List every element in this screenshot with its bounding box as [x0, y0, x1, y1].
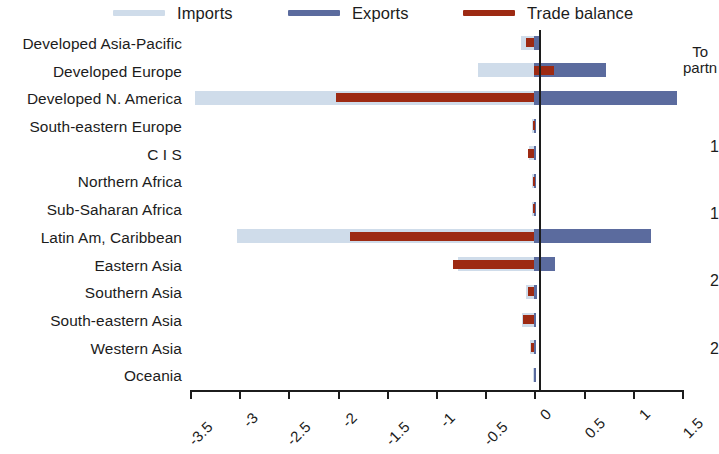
right-panel-value: 2 [710, 340, 719, 358]
chart-row [190, 85, 682, 113]
x-tick-label: 1 [635, 405, 653, 423]
category-label: Southern Asia [0, 279, 186, 307]
category-label: C I S [0, 141, 186, 169]
x-tick [584, 390, 586, 399]
x-tick [387, 390, 389, 399]
x-tick-label: 1.5 [679, 414, 706, 441]
legend-label-exports: Exports [352, 0, 409, 26]
bar-trade-balance [534, 66, 554, 75]
legend-item-trade-balance: Trade balance [463, 0, 633, 26]
zero-reference-line [539, 30, 541, 392]
bar-exports [534, 229, 650, 243]
bar-trade-balance [533, 204, 535, 213]
chart-row [190, 196, 682, 224]
chart-row [190, 335, 682, 363]
x-tick-label: -3 [239, 409, 261, 431]
category-label: Western Asia [0, 335, 186, 363]
category-label: Oceania [0, 362, 186, 390]
x-tick-label: -1.5 [382, 418, 413, 449]
bar-exports [534, 340, 536, 354]
legend-item-exports: Exports [288, 0, 409, 26]
bar-trade-balance [528, 149, 534, 158]
x-tick-label: -2 [338, 409, 360, 431]
x-tick [633, 390, 635, 399]
chart-row [190, 30, 682, 58]
chart-row [190, 252, 682, 280]
x-tick-label: -3.5 [185, 418, 216, 449]
chart-row [190, 362, 682, 390]
chart-row [190, 279, 682, 307]
x-tick-label: 0.5 [581, 414, 608, 441]
chart-row [190, 168, 682, 196]
bar-trade-balance [350, 232, 534, 241]
category-label: Developed N. America [0, 85, 186, 113]
chart-row [190, 224, 682, 252]
trade-balance-chart: Imports Exports Trade balance Developed … [0, 0, 719, 454]
bar-trade-balance [531, 343, 534, 352]
bar-trade-balance [523, 315, 535, 324]
x-tick-label: 0 [537, 405, 555, 423]
x-tick [436, 390, 438, 399]
x-tick-label: -1 [436, 409, 458, 431]
x-tick-label: -0.5 [480, 418, 511, 449]
bar-imports [478, 63, 534, 77]
bar-exports [534, 368, 536, 382]
x-tick [288, 390, 290, 399]
x-tick [534, 390, 536, 399]
right-panel-title-line2: partn [683, 60, 717, 76]
right-panel-title: To partn [683, 44, 717, 76]
category-label: South-eastern Europe [0, 113, 186, 141]
chart-legend: Imports Exports Trade balance [0, 0, 719, 26]
x-tick [682, 390, 684, 399]
right-panel-value: 1 [710, 138, 719, 156]
chart-row [190, 307, 682, 335]
bar-trade-balance [453, 260, 535, 269]
x-tick [190, 390, 192, 399]
category-axis-labels: Developed Asia-PacificDeveloped EuropeDe… [0, 30, 186, 390]
bar-trade-balance [533, 121, 535, 130]
bar-exports [534, 285, 537, 299]
x-tick [239, 390, 241, 399]
bar-trade-balance [528, 287, 534, 296]
legend-swatch-trade-balance [463, 10, 515, 16]
legend-item-imports: Imports [113, 0, 233, 26]
category-label: Eastern Asia [0, 252, 186, 280]
plot-area [190, 30, 682, 390]
category-label: Developed Asia-Pacific [0, 30, 186, 58]
bar-trade-balance [526, 38, 535, 47]
category-label: Developed Europe [0, 58, 186, 86]
right-panel-value: 2 [710, 272, 719, 290]
legend-swatch-imports [113, 10, 165, 16]
bar-exports [534, 257, 555, 271]
legend-label-imports: Imports [177, 0, 233, 26]
bar-trade-balance [533, 177, 535, 186]
chart-row [190, 141, 682, 169]
x-tick [338, 390, 340, 399]
chart-row [190, 113, 682, 141]
bar-trade-balance [336, 93, 535, 102]
x-tick [485, 390, 487, 399]
bar-exports [534, 91, 677, 105]
category-label: Latin Am, Caribbean [0, 224, 186, 252]
bar-exports [534, 313, 536, 327]
right-panel-value: 1 [710, 205, 719, 223]
right-panel-title-line1: To [683, 44, 717, 60]
category-label: Northern Africa [0, 168, 186, 196]
chart-row [190, 58, 682, 86]
x-tick-label: -2.5 [283, 418, 314, 449]
legend-label-trade-balance: Trade balance [527, 0, 633, 26]
category-label: South-eastern Asia [0, 307, 186, 335]
category-label: Sub-Saharan Africa [0, 196, 186, 224]
legend-swatch-exports [288, 10, 340, 16]
bar-exports [534, 146, 536, 160]
